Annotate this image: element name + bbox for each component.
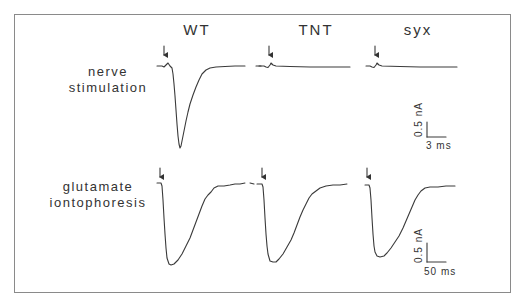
scale-bar-glutamate [427,243,446,262]
trace-wt-glutamate [157,183,245,265]
trace-gap-segment [250,183,254,184]
scale-bar-glutamate-time-label: 50 ms [424,266,456,277]
trace-syx-nerve [366,63,457,68]
trace-tnt-nerve [259,63,350,68]
trace-tnt-glutamate [257,184,347,262]
trace-wt-nerve [157,63,245,148]
figure-panel: WT TNT syx nerve stimulation glutamate i… [0,0,528,306]
scale-bar-glutamate-current-label: 0.5 nA [413,228,424,263]
scale-bar-nerve-time-label: 3 ms [426,140,452,151]
scale-bar-nerve-current-label: 0.5 nA [413,102,424,137]
trace-syx-glutamate [365,185,455,257]
traces-svg [0,0,528,306]
scale-bar-nerve [427,122,446,137]
